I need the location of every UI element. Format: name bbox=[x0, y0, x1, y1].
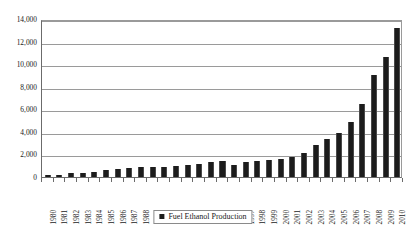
x-axis-tick-label: 1986 bbox=[120, 210, 128, 224]
bar bbox=[254, 161, 260, 177]
bar bbox=[150, 167, 156, 177]
y-axis-tick-label: 8,000 bbox=[20, 84, 37, 92]
x-axis-tick-label: 1988 bbox=[143, 210, 151, 224]
x-axis-tick-label: 1981 bbox=[61, 210, 69, 224]
bar bbox=[173, 166, 179, 177]
y-axis-tick-label: 12,000 bbox=[17, 39, 37, 47]
chart-legend: Fuel Ethanol Production bbox=[153, 210, 252, 224]
bar bbox=[313, 145, 319, 177]
x-axis-tick-label: 2007 bbox=[364, 210, 372, 224]
bar bbox=[161, 167, 167, 177]
x-axis-tick-label: 1985 bbox=[108, 210, 116, 224]
bar bbox=[185, 165, 191, 177]
bar bbox=[324, 139, 330, 177]
x-axis-tick-label: 1983 bbox=[85, 210, 93, 224]
bar bbox=[126, 168, 132, 177]
bar bbox=[348, 122, 354, 177]
x-axis-tick-label: 1980 bbox=[50, 210, 58, 224]
y-axis-tick-label: 0 bbox=[33, 174, 37, 182]
bar bbox=[278, 159, 284, 177]
bar bbox=[80, 173, 86, 177]
bar bbox=[208, 162, 214, 177]
bar bbox=[243, 162, 249, 177]
bar bbox=[115, 169, 121, 177]
bar bbox=[394, 28, 400, 177]
legend-label: Fuel Ethanol Production bbox=[168, 212, 246, 221]
bar-series-fuel-ethanol-production bbox=[42, 21, 401, 177]
bar bbox=[91, 172, 97, 177]
y-axis-tick-label: 4,000 bbox=[20, 129, 37, 137]
y-axis-tick-label: 10,000 bbox=[17, 61, 37, 69]
bar bbox=[383, 57, 389, 177]
x-axis-tick-label: 2006 bbox=[353, 210, 361, 224]
bar bbox=[289, 157, 295, 177]
legend-swatch-icon bbox=[159, 214, 164, 219]
bar bbox=[45, 175, 51, 177]
x-axis-tick-label: 2002 bbox=[306, 210, 314, 224]
x-axis-tick-label: 1999 bbox=[271, 210, 279, 224]
bar bbox=[103, 170, 109, 177]
x-axis-tick-label: 2009 bbox=[388, 210, 396, 224]
x-axis: 1980198119821983198419851986198719881989… bbox=[41, 182, 402, 212]
plot-area bbox=[41, 20, 402, 178]
x-axis-tick-label: 1987 bbox=[131, 210, 139, 224]
x-axis-tick-label: 2004 bbox=[329, 210, 337, 224]
x-axis-tick-label: 2008 bbox=[376, 210, 384, 224]
x-axis-tick-label: 2005 bbox=[341, 210, 349, 224]
bar bbox=[56, 175, 62, 177]
x-axis-tick-label: 1998 bbox=[259, 210, 267, 224]
bar bbox=[301, 153, 307, 177]
x-axis-tick-label: 2001 bbox=[294, 210, 302, 224]
x-axis-tick-label: 2003 bbox=[318, 210, 326, 224]
y-axis-tick-label: 6,000 bbox=[20, 106, 37, 114]
bar bbox=[196, 164, 202, 177]
bar bbox=[138, 167, 144, 177]
y-axis: 14,00012,00010,0008,0006,0004,0002,0000 bbox=[0, 0, 40, 230]
x-axis-tick-label: 2010 bbox=[399, 210, 406, 224]
chart-container: 14,00012,00010,0008,0006,0004,0002,0000 … bbox=[0, 0, 406, 230]
bar bbox=[231, 165, 237, 177]
bar bbox=[68, 173, 74, 177]
bar bbox=[336, 133, 342, 177]
x-axis-tick-label: 1982 bbox=[73, 210, 81, 224]
x-axis-tick-label: 2000 bbox=[283, 210, 291, 224]
bar bbox=[359, 104, 365, 177]
bar bbox=[371, 75, 377, 177]
x-axis-tick-label: 1984 bbox=[96, 210, 104, 224]
y-axis-tick-label: 2,000 bbox=[20, 151, 37, 159]
x-axis-tick bbox=[402, 178, 403, 182]
bar bbox=[219, 161, 225, 177]
bar bbox=[266, 160, 272, 177]
y-axis-tick-label: 14,000 bbox=[17, 16, 37, 24]
